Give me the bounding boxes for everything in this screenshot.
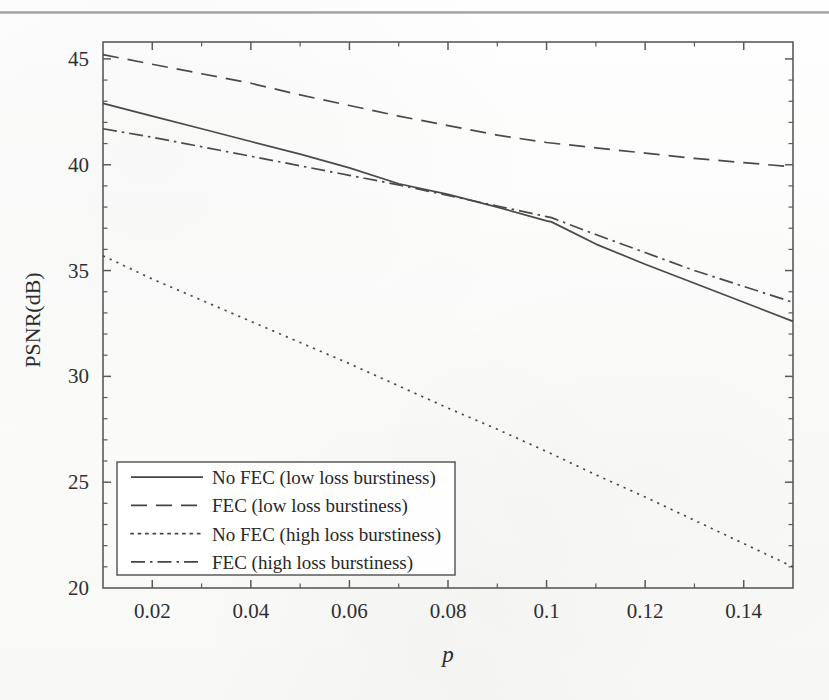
series-line-3 (103, 129, 793, 303)
x-tick-labels: 0.020.040.060.080.10.120.14 (134, 599, 763, 623)
series-line-0 (103, 103, 793, 321)
x-tick-label: 0.04 (232, 599, 269, 623)
x-axis-label: p (440, 642, 454, 667)
series-line-1 (103, 55, 793, 167)
y-tick-label: 35 (68, 259, 89, 283)
legend-label-1: FEC (low loss burstiness) (212, 495, 408, 517)
y-axis-label: PSNR(dB) (20, 272, 45, 367)
y-tick-label: 20 (68, 576, 89, 600)
legend-label-2: No FEC (high loss burstiness) (212, 524, 441, 546)
x-tick-label: 0.06 (331, 599, 368, 623)
y-tick-label: 45 (68, 47, 89, 71)
legend: No FEC (low loss burstiness)FEC (low los… (117, 462, 455, 575)
y-tick-label: 40 (68, 153, 89, 177)
x-tick-label: 0.14 (725, 599, 762, 623)
y-tick-label: 30 (68, 364, 89, 388)
x-tick-label: 0.12 (627, 599, 664, 623)
legend-label-0: No FEC (low loss burstiness) (212, 467, 436, 489)
y-tick-labels: 202530354045 (68, 47, 89, 600)
chart-canvas: 0.020.040.060.080.10.120.14 202530354045… (0, 0, 829, 700)
legend-label-3: FEC (high loss burstiness) (212, 552, 413, 574)
x-tick-label: 0.1 (533, 599, 559, 623)
figure-psnr-vs-p: 0.020.040.060.080.10.120.14 202530354045… (0, 0, 829, 700)
x-tick-label: 0.02 (134, 599, 171, 623)
x-tick-label: 0.08 (430, 599, 467, 623)
y-tick-label: 25 (68, 470, 89, 494)
